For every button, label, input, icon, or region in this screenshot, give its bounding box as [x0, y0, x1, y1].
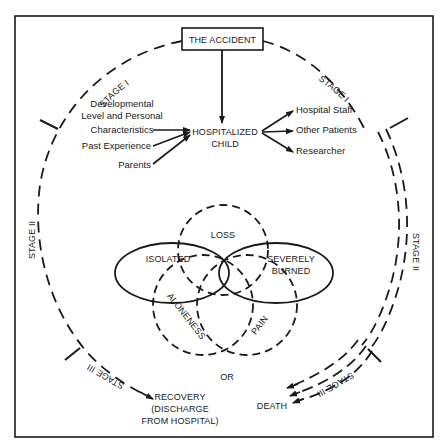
divider-tick-left-2-3 — [65, 348, 80, 360]
stage2-left-label: STAGE II — [27, 221, 37, 259]
venn-label-loss: LOSS — [211, 230, 235, 240]
venn-label-pain: PAIN — [249, 314, 270, 337]
stress-model-diagram: THE ACCIDENT HOSPITALIZED CHILD Developm… — [0, 0, 446, 447]
output-researcher: Researcher — [296, 145, 345, 156]
venn-label-severely: SEVERELY — [267, 254, 315, 264]
center-node-line2: CHILD — [211, 139, 239, 149]
venn-circle-aloneness — [153, 255, 253, 355]
input-developmental-line2: Level and Personal — [81, 110, 162, 121]
arrow-other-patients — [262, 131, 293, 132]
output-hospital-staff: Hospital Staff — [296, 104, 353, 115]
divider-tick-left-1-2 — [40, 120, 58, 129]
divider-tick-right-1-2 — [390, 118, 408, 128]
input-parents: Parents — [118, 159, 151, 170]
center-node-line1: HOSPITALIZED — [192, 127, 258, 137]
output-other-patients: Other Patients — [296, 124, 357, 135]
venn-label-isolated: ISOLATED — [146, 254, 191, 264]
death-arrow-1 — [287, 384, 298, 388]
stage-path-right-stage2-b — [370, 129, 407, 349]
outcome-death: DEATH — [257, 401, 287, 411]
venn-label-burned: BURNED — [272, 266, 311, 276]
input-past-experience: Past Experience — [82, 140, 151, 151]
stage3-left-label: STAGE III — [85, 362, 125, 391]
stage1-right-label: STAGE I — [317, 74, 351, 105]
input-developmental-line3: Characteristics — [91, 124, 154, 135]
death-arrow-3 — [293, 399, 303, 403]
recovery-line2: (DISCHARGE — [151, 404, 209, 414]
recovery-arrow — [140, 392, 153, 399]
venn-circle-loss — [178, 205, 268, 295]
death-arrow-2 — [290, 392, 300, 396]
stage-path-right-stage1 — [263, 41, 365, 130]
stage2-right-label: STAGE II — [411, 233, 421, 271]
stage-path-right-stage2-a — [362, 132, 399, 345]
accident-label: THE ACCIDENT — [189, 35, 257, 45]
recovery-line1: RECOVERY — [154, 392, 205, 402]
arrow-researcher — [262, 133, 293, 152]
outcome-or: OR — [220, 372, 234, 382]
arrow-hospital-staff — [262, 111, 293, 131]
recovery-line3: FROM HOSPITAL) — [141, 416, 218, 426]
